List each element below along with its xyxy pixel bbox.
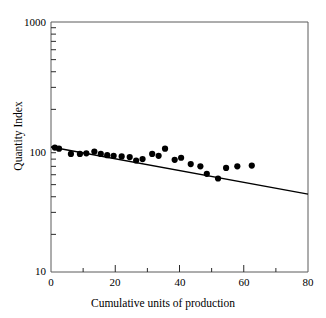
data-point (249, 162, 255, 168)
data-point (139, 156, 145, 162)
data-point (188, 161, 194, 167)
y-tick-label-10: 10 (8, 266, 46, 277)
x-tick-label-20: 20 (101, 277, 129, 288)
y-tick-label-1000: 1000 (8, 17, 46, 28)
x-tick-label-40: 40 (166, 277, 194, 288)
data-point (162, 146, 168, 152)
data-point (119, 153, 125, 159)
y-axis-title: Quantity Index (12, 81, 24, 191)
data-point (178, 155, 184, 161)
data-point (56, 146, 62, 152)
x-tick-label-0: 0 (37, 277, 65, 288)
data-point (77, 151, 83, 157)
data-point (133, 157, 139, 163)
data-point (149, 151, 155, 157)
data-point (104, 152, 110, 158)
x-axis-title: Cumulative units of production (0, 297, 326, 309)
data-points (52, 144, 255, 181)
x-tick-label-60: 60 (230, 277, 258, 288)
data-point (127, 154, 133, 160)
data-point (83, 150, 89, 156)
trend-line (51, 147, 308, 194)
axis-frame (51, 22, 308, 272)
x-tick-label-80: 80 (294, 277, 322, 288)
plot-area (0, 0, 326, 318)
quantity-index-learning-curve-chart: 1000 100 10 0 20 40 60 80 Cumulative uni… (0, 0, 326, 318)
plot-border (51, 22, 308, 272)
x-axis-ticks (83, 265, 276, 272)
data-point (215, 175, 221, 181)
data-point (111, 153, 117, 159)
data-point (91, 148, 97, 154)
data-point (98, 151, 104, 157)
data-point (204, 171, 210, 177)
y-axis-ticks (51, 28, 59, 235)
data-point (172, 157, 178, 163)
trend-line-path (51, 147, 308, 194)
data-point (223, 165, 229, 171)
data-point (197, 163, 203, 169)
data-point (68, 151, 74, 157)
data-point (234, 163, 240, 169)
data-point (156, 153, 162, 159)
